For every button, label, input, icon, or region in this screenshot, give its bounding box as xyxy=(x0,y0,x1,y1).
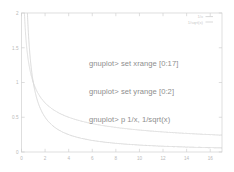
y-tick-label: 0.5 xyxy=(12,115,19,120)
plot-legend: 1/x1/sqrt(x) xyxy=(188,14,213,24)
legend-label: 1/sqrt(x) xyxy=(188,20,204,25)
x-tick-label: 6 xyxy=(91,156,94,161)
x-tick-label: 4 xyxy=(67,156,70,161)
console-line-1: gnuplot> set xrange [0:17] xyxy=(89,59,178,68)
x-tick-label: 16 xyxy=(208,156,214,161)
gnuplot-screenshot: 0246810121416 00.511.52 1/x1/sqrt(x) gnu… xyxy=(0,0,234,172)
x-tick-label: 10 xyxy=(137,156,143,161)
y-tick-label: 0 xyxy=(16,150,19,155)
x-tick-label: 8 xyxy=(115,156,118,161)
x-tick-label: 0 xyxy=(20,156,23,161)
x-tick-label: 2 xyxy=(44,156,47,161)
console-line-2: gnuplot> set yrange [0:2] xyxy=(89,87,178,96)
x-tick-label: 14 xyxy=(184,156,190,161)
legend-label: 1/x xyxy=(197,14,203,19)
y-tick-label: 1 xyxy=(16,80,19,85)
x-tick-label: 12 xyxy=(160,156,166,161)
console-line-3: gnuplot> p 1/x, 1/sqrt(x) xyxy=(89,115,178,124)
gnuplot-console-overlay: gnuplot> set xrange [0:17] gnuplot> set … xyxy=(89,41,178,142)
y-tick-label: 1.5 xyxy=(12,46,19,51)
y-tick-label: 2 xyxy=(16,11,19,16)
